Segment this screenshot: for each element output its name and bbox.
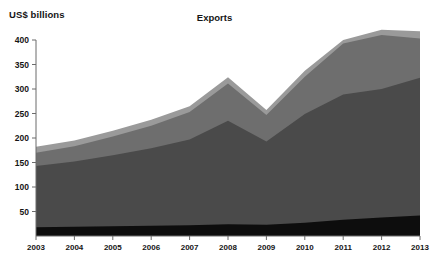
x-tick-label: 2010 [288, 243, 322, 252]
x-tick-label: 2003 [19, 243, 53, 252]
y-tick-label: 250 [3, 109, 29, 119]
x-tick-label: 2008 [211, 243, 245, 252]
y-tick-label: 350 [3, 60, 29, 70]
x-tick-label: 2012 [365, 243, 399, 252]
x-tick-label: 2011 [326, 243, 360, 252]
x-tick-label: 2009 [249, 243, 283, 252]
y-tick-label: 200 [3, 133, 29, 143]
y-tick-label: 150 [3, 158, 29, 168]
x-tick-label: 2006 [134, 243, 168, 252]
x-tick-label: 2007 [173, 243, 207, 252]
y-tick-label: 300 [3, 84, 29, 94]
x-tick-label: 2013 [403, 243, 434, 252]
y-tick-label: 100 [3, 182, 29, 192]
y-tick-label: 400 [3, 35, 29, 45]
y-tick-label: 50 [3, 207, 29, 217]
x-tick-label: 2004 [57, 243, 91, 252]
x-tick-label: 2005 [96, 243, 130, 252]
